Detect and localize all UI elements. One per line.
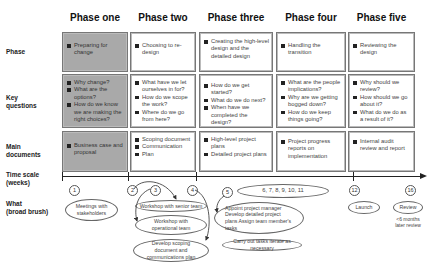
flow-arrows	[0, 0, 440, 268]
